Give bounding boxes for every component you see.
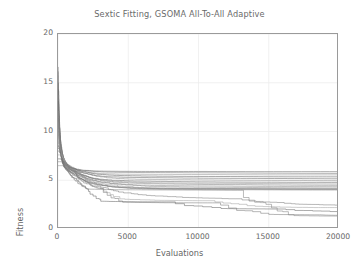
series-line xyxy=(58,155,338,208)
y-tick-label: 5 xyxy=(35,175,53,183)
series-line xyxy=(58,101,338,182)
x-tick-label: 0 xyxy=(55,233,60,241)
series-line xyxy=(58,73,338,175)
x-tick-label: 10000 xyxy=(185,233,209,241)
series-line xyxy=(58,124,338,187)
x-axis-title: Evaluations xyxy=(0,248,359,258)
series-line xyxy=(58,71,338,173)
series-line xyxy=(58,145,338,189)
series-line xyxy=(58,136,338,189)
series-line xyxy=(58,90,338,179)
series-line xyxy=(58,83,338,177)
y-axis-title-wrap: Fitness xyxy=(8,100,32,160)
plot-svg xyxy=(58,34,338,228)
x-axis-ticks: 05000100001500020000 xyxy=(0,233,359,245)
plot-area xyxy=(57,33,338,228)
series-lines xyxy=(58,67,338,216)
chart-container: Sextic Fitting, GSOMA All-To-All Adaptiv… xyxy=(0,0,359,270)
series-line xyxy=(58,118,338,185)
x-tick-label: 5000 xyxy=(118,233,137,241)
series-line xyxy=(58,95,338,181)
x-tick-label: 15000 xyxy=(256,233,280,241)
y-tick-label: 0 xyxy=(35,224,53,232)
y-axis-ticks: 05101520 xyxy=(33,0,53,270)
y-tick-label: 10 xyxy=(35,127,53,135)
x-tick-label: 20000 xyxy=(326,233,350,241)
y-axis-title: Fitness xyxy=(15,192,25,252)
y-tick-label: 20 xyxy=(35,29,53,37)
y-tick-label: 15 xyxy=(35,78,53,86)
chart-title: Sextic Fitting, GSOMA All-To-All Adaptiv… xyxy=(0,9,359,19)
